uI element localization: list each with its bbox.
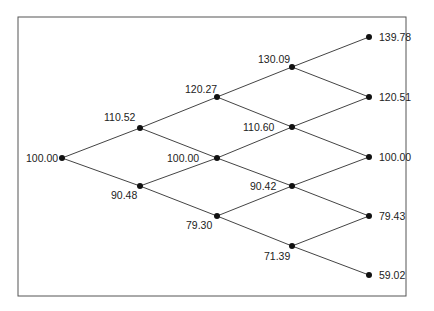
node-value-label: 110.52 [104, 111, 135, 123]
node-value-label: 79.43 [379, 210, 405, 222]
tree-edge [292, 127, 369, 157]
tree-edge [292, 186, 369, 216]
tree-edge [140, 186, 217, 216]
tree-node-dot [289, 124, 295, 130]
tree-edge [292, 157, 369, 186]
node-value-label: 71.39 [264, 250, 290, 262]
node-value-label: 100.00 [26, 152, 58, 164]
node-value-label: 120.51 [379, 91, 411, 103]
tree-edge [292, 37, 369, 67]
node-value-label: 90.42 [250, 180, 276, 192]
tree-edge [292, 97, 369, 127]
tree-edge [292, 216, 369, 246]
tree-nodes [59, 34, 372, 278]
node-value-label: 79.30 [186, 219, 212, 231]
node-value-label: 100.00 [379, 151, 411, 163]
tree-node-dot [366, 154, 372, 160]
tree-node-dot [137, 125, 143, 131]
node-value-label: 110.60 [243, 121, 274, 133]
node-value-label: 90.48 [111, 189, 137, 201]
tree-node-dot [366, 94, 372, 100]
binomial-tree-diagram: 100.00110.5290.48120.27100.0079.30130.09… [0, 0, 434, 311]
node-value-label: 120.27 [185, 83, 217, 95]
tree-node-dot [289, 183, 295, 189]
tree-edge [292, 67, 369, 97]
tree-edge [62, 128, 140, 158]
tree-node-dot [289, 243, 295, 249]
tree-edge [217, 67, 292, 97]
tree-node-dot [366, 34, 372, 40]
tree-node-dot [366, 213, 372, 219]
tree-edge [217, 216, 292, 246]
node-value-label: 139.78 [379, 31, 411, 43]
tree-edge [292, 246, 369, 275]
tree-node-dot [366, 272, 372, 278]
tree-node-dot [214, 155, 220, 161]
node-value-label: 130.09 [258, 53, 290, 65]
tree-edge [140, 97, 217, 128]
tree-node-dot [137, 183, 143, 189]
tree-node-dot [59, 155, 65, 161]
node-value-label: 59.02 [379, 269, 405, 281]
tree-node-dot [214, 213, 220, 219]
node-value-label: 100.00 [167, 152, 199, 164]
tree-edge [62, 158, 140, 186]
